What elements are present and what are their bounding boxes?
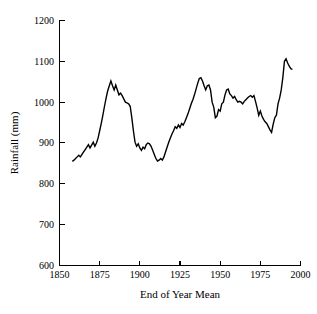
y-tick-label: 900 [39,137,54,148]
x-tick-label: 1950 [210,269,230,280]
x-tick-label: 1975 [250,269,270,280]
chart-svg: 600 700 800 900 1000 1100 1200 1850 1875… [0,0,317,314]
x-axis-ticks [60,261,301,266]
y-axis-title: Rainfall (mm) [8,111,21,174]
y-axis-ticks [60,21,65,266]
x-tick-label: 2000 [291,269,311,280]
y-tick-label: 700 [39,219,54,230]
y-tick-label: 1200 [34,15,54,26]
x-axis-tick-labels: 1850 1875 1900 1925 1950 1975 2000 [50,269,311,280]
x-tick-label: 1925 [170,269,190,280]
x-tick-label: 1850 [50,269,70,280]
rainfall-line-chart: 600 700 800 900 1000 1100 1200 1850 1875… [0,0,317,314]
rainfall-series-line [72,59,292,162]
x-axis-title: End of Year Mean [140,288,221,300]
y-tick-label: 1100 [34,56,54,67]
y-tick-label: 800 [39,178,54,189]
x-tick-label: 1875 [90,269,110,280]
y-tick-label: 1000 [34,97,54,108]
y-axis-tick-labels: 600 700 800 900 1000 1100 1200 [34,15,54,271]
x-tick-label: 1900 [130,269,150,280]
